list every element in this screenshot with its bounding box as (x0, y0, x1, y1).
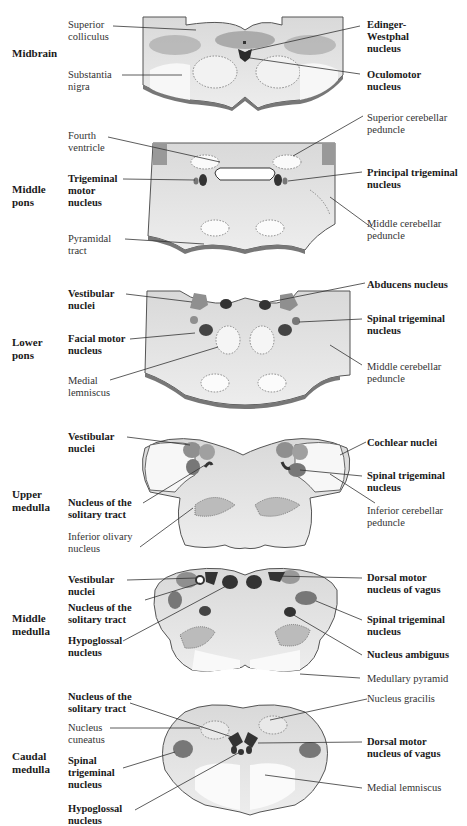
level-label-middle-medulla: Middle medulla (12, 612, 50, 638)
level-label-caudal-medulla: Caudal medulla (12, 750, 50, 776)
label-dorsal-motor-nucleus-vagus: Dorsal motor nucleus of vagus (367, 736, 441, 760)
label-trigeminal-motor-nucleus: Trigeminal motor nucleus (68, 173, 117, 209)
label-middle-cerebellar-peduncle: Middle cerebellar peduncle (367, 361, 441, 385)
middle-medulla-section (154, 568, 337, 671)
label-hypoglossal-nucleus: Hypoglossal nucleus (68, 635, 122, 659)
label-superior-colliculus: Superior colliculus (68, 19, 109, 43)
label-vestibular-nuclei: Vestibular nuclei (68, 431, 114, 455)
label-nucleus-solitary-tract: Nucleus of the solitary tract (68, 691, 132, 715)
upper-medulla-section (142, 439, 349, 549)
label-superior-cerebellar-peduncle: Superior cerebellar peduncle (367, 112, 447, 136)
label-abducens-nucleus: Abducens nucleus (367, 279, 448, 291)
level-label-midbrain: Midbrain (12, 47, 57, 60)
label-spinal-trigeminal-nucleus: Spinal trigeminal nucleus (68, 755, 115, 791)
label-substantia-nigra: Substantia nigra (68, 69, 112, 93)
label-hypoglossal-nucleus: Hypoglossal nucleus (68, 803, 122, 826)
label-cochlear-nuclei: Cochlear nuclei (367, 437, 437, 449)
label-medial-lemniscus: Medial lemniscus (367, 782, 441, 794)
label-spinal-trigeminal-nucleus: Spinal trigeminal nucleus (367, 614, 445, 638)
label-nucleus-solitary-tract: Nucleus of the solitary tract (68, 497, 132, 521)
label-nucleus-gracilis: Nucleus gracilis (367, 693, 435, 705)
label-nucleus-ambiguus: Nucleus ambiguus (367, 649, 449, 661)
label-middle-cerebellar-peduncle: Middle cerebellar peduncle (367, 218, 441, 242)
label-pyramidal-tract: Pyramidal tract (68, 233, 111, 257)
label-vestibular-nuclei: Vestibular nuclei (68, 288, 114, 312)
level-label-upper-medulla: Upper medulla (12, 488, 50, 514)
label-spinal-trigeminal-nucleus: Spinal trigeminal nucleus (367, 470, 445, 494)
label-edinger-westphal-nucleus: Edinger- Westphal nucleus (367, 19, 409, 55)
label-facial-motor-nucleus: Facial motor nucleus (68, 333, 125, 357)
level-label-middle-pons: Middle pons (12, 183, 46, 209)
label-inferior-cerebellar-peduncle: Inferior cerebellar peduncle (367, 505, 443, 529)
label-medullary-pyramid: Medullary pyramid (367, 673, 448, 685)
level-label-lower-pons: Lower pons (12, 336, 43, 362)
label-dorsal-motor-nucleus-vagus: Dorsal motor nucleus of vagus (367, 572, 441, 596)
middle-pons-section (148, 143, 335, 254)
lower-pons-section (145, 291, 350, 409)
label-nucleus-cuneatus: Nucleus cuneatus (68, 722, 105, 746)
label-oculomotor-nucleus: Oculomotor nucleus (367, 69, 421, 93)
label-nucleus-solitary-tract: Nucleus of the solitary tract (68, 602, 132, 626)
label-inferior-olivary-nucleus: Inferior olivary nucleus (68, 531, 132, 555)
caudal-medulla-section (163, 705, 328, 815)
midbrain-section (143, 17, 343, 111)
label-fourth-ventricle: Fourth ventricle (68, 130, 105, 154)
label-spinal-trigeminal-nucleus: Spinal trigeminal nucleus (367, 313, 445, 337)
label-vestibular-nuclei: Vestibular nuclei (68, 574, 114, 598)
label-principal-trigeminal-nucleus: Principal trigeminal nucleus (367, 167, 458, 191)
label-medial-lemniscus: Medial lemniscus (68, 375, 110, 399)
